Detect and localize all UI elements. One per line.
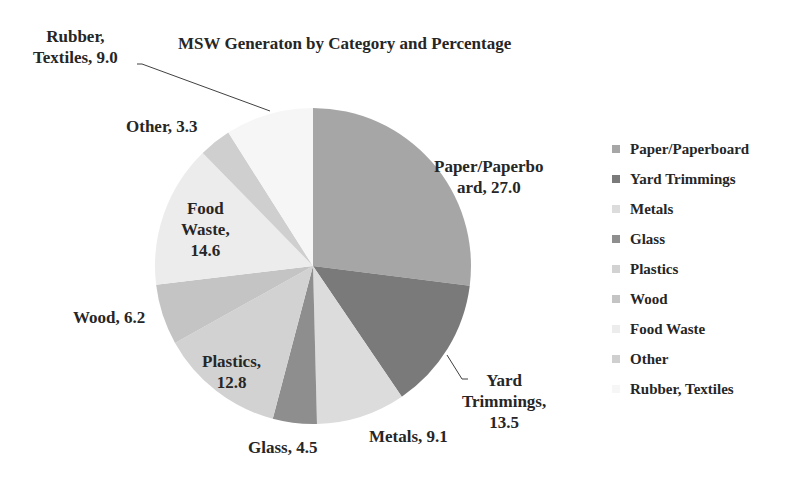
- data-label-text: Paper/Paperbo: [434, 156, 544, 177]
- data-label-text: Glass, 4.5: [248, 437, 317, 458]
- legend-swatch-icon: [612, 355, 620, 363]
- data-label-text: Textiles, 9.0: [33, 47, 118, 68]
- data-label-text: Waste,: [181, 219, 230, 240]
- legend-swatch-icon: [612, 145, 620, 153]
- legend-swatch-icon: [612, 205, 620, 213]
- data-label-text: Plastics,: [202, 351, 261, 372]
- legend-label: Wood: [630, 291, 668, 308]
- legend-label: Paper/Paperboard: [630, 141, 749, 158]
- legend-item-plastics[interactable]: Plastics: [612, 254, 749, 284]
- chart-legend: Paper/Paperboard Yard Trimmings Metals G…: [612, 134, 749, 404]
- legend-label: Plastics: [630, 261, 678, 278]
- data-label-text: Food: [181, 198, 230, 219]
- legend-swatch-icon: [612, 325, 620, 333]
- data-label-text: Rubber,: [33, 26, 118, 47]
- data-label-yard-trimmings: Yard Trimmings, 13.5: [462, 370, 546, 433]
- data-label-plastics: Plastics, 12.8: [202, 351, 261, 393]
- data-label-text: Other, 3.3: [126, 116, 198, 137]
- data-label-text: 12.8: [202, 372, 261, 393]
- data-label-text: 13.5: [462, 412, 546, 433]
- data-label-text: ard, 27.0: [434, 177, 544, 198]
- legend-swatch-icon: [612, 295, 620, 303]
- legend-item-yard-trimmings[interactable]: Yard Trimmings: [612, 164, 749, 194]
- legend-swatch-icon: [612, 265, 620, 273]
- legend-label: Metals: [630, 201, 673, 218]
- legend-label: Glass: [630, 231, 665, 248]
- legend-label: Other: [630, 351, 668, 368]
- data-label-text: Trimmings,: [462, 391, 546, 412]
- legend-item-other[interactable]: Other: [612, 344, 749, 374]
- legend-label: Rubber, Textiles: [630, 381, 734, 398]
- legend-swatch-icon: [612, 175, 620, 183]
- data-label-metals: Metals, 9.1: [369, 426, 448, 447]
- data-label-rubber-textiles: Rubber, Textiles, 9.0: [33, 26, 118, 68]
- legend-item-paper[interactable]: Paper/Paperboard: [612, 134, 749, 164]
- leader-line-rubber: [137, 64, 270, 111]
- data-label-text: 14.6: [181, 240, 230, 261]
- legend-swatch-icon: [612, 235, 620, 243]
- data-label-glass: Glass, 4.5: [248, 437, 317, 458]
- legend-label: Food Waste: [630, 321, 705, 338]
- data-label-other: Other, 3.3: [126, 116, 198, 137]
- data-label-wood: Wood, 6.2: [73, 307, 145, 328]
- legend-item-glass[interactable]: Glass: [612, 224, 749, 254]
- legend-item-wood[interactable]: Wood: [612, 284, 749, 314]
- legend-item-rubber-textiles[interactable]: Rubber, Textiles: [612, 374, 749, 404]
- legend-item-food-waste[interactable]: Food Waste: [612, 314, 749, 344]
- legend-item-metals[interactable]: Metals: [612, 194, 749, 224]
- data-label-food-waste: Food Waste, 14.6: [181, 198, 230, 261]
- legend-label: Yard Trimmings: [630, 171, 736, 188]
- data-label-text: Metals, 9.1: [369, 426, 448, 447]
- data-label-paper: Paper/Paperbo ard, 27.0: [434, 156, 544, 198]
- data-label-text: Yard: [462, 370, 546, 391]
- data-label-text: Wood, 6.2: [73, 307, 145, 328]
- legend-swatch-icon: [612, 385, 620, 393]
